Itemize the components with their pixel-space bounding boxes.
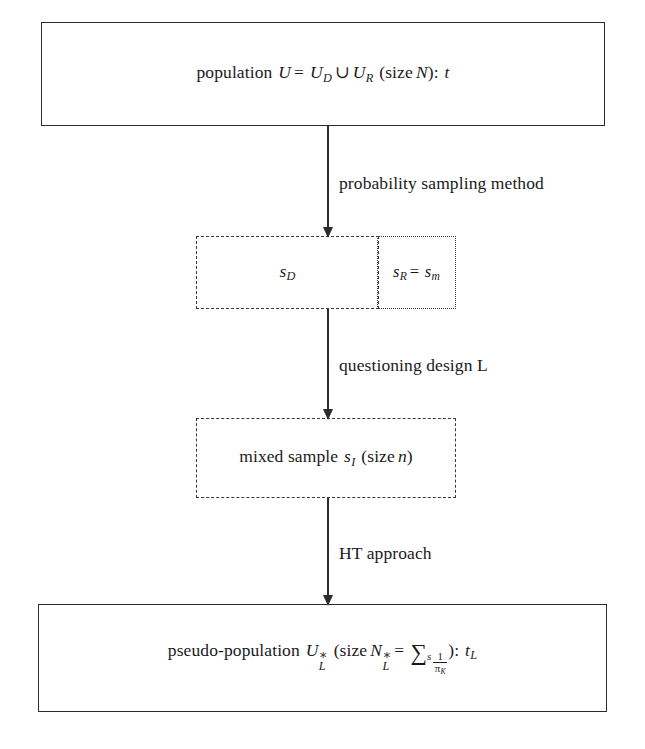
edge-label-questioning-design: questioning design L (339, 355, 488, 376)
subscript-K: K (440, 667, 445, 676)
node-sample-r: sR=sm (377, 236, 456, 309)
fraction-one-over-pi-K: 1πK (432, 651, 448, 677)
symbol-equals: = (291, 62, 307, 82)
subscript-D: D (323, 71, 332, 85)
edge-label-ht-approach: HT approach (339, 543, 432, 564)
size-open-paren: (size (361, 446, 395, 466)
pseudo-population-label: pseudo-population (168, 640, 300, 660)
subscript-L: L (382, 661, 391, 671)
summation-sigma-icon: ∑ (410, 638, 427, 664)
arrow-population-to-samples (327, 126, 329, 237)
population-label: population (196, 62, 272, 82)
node-population-text: populationU=UD∪UR(sizeN):t (196, 62, 449, 86)
symbol-U-R: U (353, 62, 366, 82)
symbol-n: n (398, 446, 407, 466)
symbol-N: N (416, 62, 428, 82)
edge-label-probability-sampling-method: probability sampling method (339, 173, 544, 194)
size-open-paren: (size (379, 62, 413, 82)
symbol-s: s (344, 446, 351, 466)
symbol-equals: = (391, 640, 407, 660)
flowchart-diagram: populationU=UD∪UR(sizeN):t probability s… (0, 0, 645, 749)
fraction-denominator: πK (433, 662, 446, 676)
arrow-mixed-to-pseudo (327, 498, 329, 605)
node-pseudo-population-text: pseudo-populationU∗L(sizeN∗L=∑s1πK):tL (168, 640, 477, 677)
fraction-numerator: 1 (437, 651, 443, 662)
node-sample-d: sD (196, 236, 379, 309)
U-star-L-script: ∗L (319, 650, 328, 671)
symbol-U: U (278, 62, 291, 82)
subscript-D: D (286, 269, 295, 283)
node-sample-r-text: sR=sm (393, 262, 440, 284)
subscript-I: I (351, 455, 355, 469)
arrow-samples-to-mixed (327, 309, 329, 419)
node-mixed-sample: mixed samplesI(sizen) (196, 418, 456, 498)
size-close-paren: ): (428, 62, 439, 82)
subscript-L: L (319, 661, 328, 671)
symbol-N: N (370, 640, 382, 660)
node-mixed-sample-text: mixed samplesI(sizen) (239, 446, 413, 470)
node-pseudo-population: pseudo-populationU∗L(sizeN∗L=∑s1πK):tL (38, 604, 607, 712)
size-close-paren: ) (407, 446, 413, 466)
size-close-paren: ): (448, 640, 459, 660)
symbol-equals: = (407, 262, 422, 281)
symbol-U-D: U (310, 62, 323, 82)
symbol-union: ∪ (332, 62, 353, 82)
subscript-R: R (365, 71, 373, 85)
node-sample-d-text: sD (279, 261, 295, 285)
node-population: populationU=UD∪UR(sizeN):t (41, 22, 605, 126)
subscript-R: R (399, 270, 406, 282)
symbol-t: t (445, 62, 450, 82)
symbol-U: U (306, 640, 319, 660)
subscript-L: L (470, 648, 477, 662)
subscript-m: m (431, 270, 440, 282)
N-star-L-script: ∗L (382, 650, 391, 671)
mixed-sample-label: mixed sample (239, 446, 338, 466)
size-open-paren: (size (334, 640, 368, 660)
